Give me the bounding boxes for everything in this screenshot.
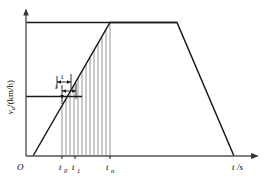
y-axis-label: va/(km/h) [5,80,16,114]
y-axis-label-composite: va/(km/h) [5,80,16,114]
tick-label-t0: t 0 [59,162,68,174]
interval-annotation-lower-label: 1 [54,83,58,91]
velocity-time-figure: 1 1 O t 0 t 1 t n t /s [0,0,267,183]
tick-label-t0-var: t [59,162,62,172]
x-axis-label-unit: /s [236,162,244,172]
interval-annotation-upper-arrow-right [67,80,71,84]
tick-label-tn: t n [106,162,114,174]
x-axis-arrowhead [251,153,259,159]
interval-annotation-upper-label: 1 [60,73,64,81]
tick-label-t1-var: t [72,162,75,172]
speed-profile-curve [33,23,234,157]
tick-label-t1: t 1 [72,162,80,174]
y-axis-arrowhead [23,9,29,16]
origin-label: O [17,162,24,172]
tick-label-t1-sub: 1 [77,167,80,174]
x-axis-label-var: t [232,162,235,172]
riemann-strips-group [62,23,110,157]
tick-label-tn-var: t [106,162,109,172]
interval-annotation-lower-arrow-left [62,89,66,93]
plot-canvas: 1 1 O t 0 t 1 t n t /s [0,0,267,183]
x-axis-label: t /s [232,162,244,172]
tick-label-t0-sub: 0 [64,167,68,174]
y-axis-label-unit: /(km/h) [5,80,15,107]
tick-label-tn-sub: n [111,167,114,174]
